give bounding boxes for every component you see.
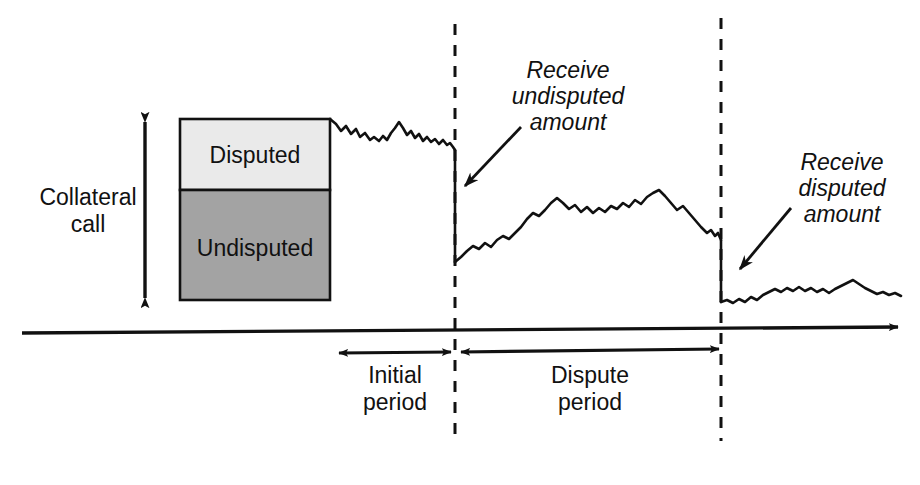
- receive-undisputed-label-line2: undisputed: [512, 83, 626, 109]
- receive-undisputed-label-line1: Receive: [526, 57, 609, 83]
- initial-period-label-line2: period: [363, 389, 427, 415]
- dispute-period-arrow: [461, 349, 719, 352]
- initial-period-path: [330, 119, 455, 150]
- disputed-segment-label: Disputed: [210, 142, 301, 168]
- initial-period-arrow: [339, 352, 451, 353]
- collateral-call-label-line2: call: [71, 211, 106, 237]
- dispute-period-path: [455, 190, 721, 262]
- receive-disputed-label-line1: Receive: [800, 149, 883, 175]
- receive-disputed-label-line2: disputed: [799, 175, 887, 201]
- receive-undisputed-label-line3: amount: [530, 109, 608, 135]
- diagram-canvas: Disputed Undisputed Collateral call Init…: [0, 0, 920, 485]
- dispute-period-label-line1: Dispute: [551, 362, 629, 388]
- diagram-svg: Disputed Undisputed Collateral call Init…: [0, 0, 920, 485]
- post-dispute-path: [721, 280, 901, 303]
- collateral-call-label-line1: Collateral: [39, 184, 136, 210]
- undisputed-segment-label: Undisputed: [197, 235, 313, 261]
- receive-disputed-arrow: [740, 208, 791, 269]
- receive-undisputed-arrow: [465, 127, 521, 186]
- time-axis: [22, 327, 898, 333]
- receive-disputed-label-line3: amount: [804, 201, 882, 227]
- dispute-period-label-line2: period: [558, 389, 622, 415]
- initial-period-label-line1: Initial: [368, 362, 422, 388]
